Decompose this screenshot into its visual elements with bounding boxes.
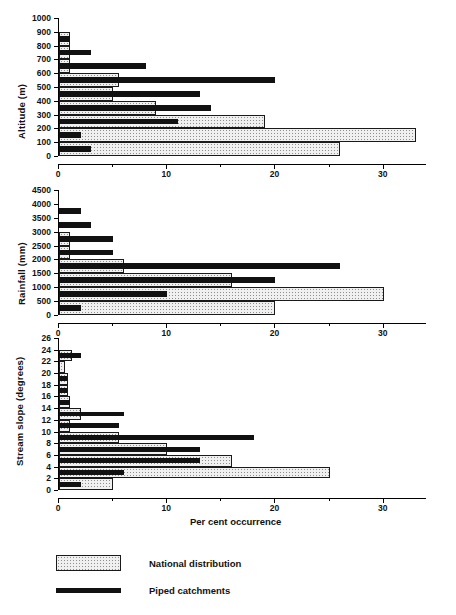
bar-piped: [59, 470, 124, 475]
legend-item-national: National distribution: [56, 555, 241, 571]
bar-piped: [59, 132, 81, 138]
bar-national: [59, 128, 416, 142]
bar-piped: [59, 277, 275, 283]
bar-piped: [59, 236, 113, 242]
y-tick-label: 3500: [7, 213, 51, 223]
y-tick: [54, 432, 58, 433]
y-tick: [54, 455, 58, 456]
y-tick-label: 1500: [7, 268, 51, 278]
x-tick-label: 10: [162, 169, 171, 179]
bar-piped: [59, 105, 211, 111]
y-tick: [54, 73, 58, 74]
x-tick-minor: [112, 165, 113, 167]
legend-swatch-national: [56, 555, 121, 571]
bar-piped: [59, 400, 70, 405]
bar-piped: [59, 77, 275, 83]
y-tick-label: 24: [7, 345, 51, 355]
y-tick-label: 4000: [7, 199, 51, 209]
bar-piped: [59, 91, 200, 97]
y-tick: [54, 408, 58, 409]
y-tick: [54, 361, 58, 362]
x-tick-label: 30: [378, 503, 387, 513]
y-tick-label: 600: [7, 68, 51, 78]
x-tick-label: 20: [270, 503, 279, 513]
x-tick-label: 30: [378, 328, 387, 338]
y-tick: [54, 190, 58, 191]
y-tick: [54, 18, 58, 19]
bar-piped: [59, 353, 81, 358]
y-tick-label: 2500: [7, 241, 51, 251]
y-tick-label: 20: [7, 368, 51, 378]
y-tick: [54, 350, 58, 351]
y-tick-label: 200: [7, 123, 51, 133]
y-tick: [54, 301, 58, 302]
legend-label-national: National distribution: [149, 558, 241, 569]
bar-national: [59, 361, 65, 373]
bar-piped: [59, 263, 340, 269]
y-tick-label: 700: [7, 54, 51, 64]
y-tick-label: 1000: [7, 13, 51, 23]
legend-swatch-piped: [56, 588, 121, 593]
y-tick-label: 26: [7, 333, 51, 343]
y-tick-label: 1000: [7, 282, 51, 292]
y-tick: [54, 218, 58, 219]
bar-piped: [59, 376, 67, 381]
x-tick-minor: [112, 499, 113, 501]
y-tick: [54, 478, 58, 479]
y-tick: [54, 128, 58, 129]
x-tick-label: 10: [162, 503, 171, 513]
y-tick-label: 18: [7, 380, 51, 390]
y-tick: [54, 467, 58, 468]
y-tick: [54, 204, 58, 205]
y-tick-label: 12: [7, 415, 51, 425]
x-tick-label: 0: [56, 169, 61, 179]
x-tick-label: 30: [378, 169, 387, 179]
y-tick-label: 22: [7, 356, 51, 366]
y-tick-label: 4: [7, 462, 51, 472]
y-tick: [54, 87, 58, 88]
bar-piped: [59, 388, 67, 393]
bar-piped: [59, 435, 254, 440]
figure-legend: National distributionPiped catchments: [0, 555, 456, 610]
x-axis-title: Per cent occurrence: [190, 516, 281, 527]
bar-piped: [59, 146, 91, 152]
x-axis-line: [58, 498, 426, 499]
bar-piped: [59, 482, 81, 487]
y-tick: [54, 490, 58, 491]
y-tick: [54, 338, 58, 339]
x-tick-minor: [329, 165, 330, 167]
y-tick-label: 8: [7, 438, 51, 448]
y-tick-label: 0: [7, 485, 51, 495]
y-tick-label: 3000: [7, 227, 51, 237]
x-tick-minor: [329, 499, 330, 501]
y-tick: [54, 246, 58, 247]
bar-piped: [59, 50, 91, 56]
y-tick-label: 900: [7, 27, 51, 37]
y-tick: [54, 443, 58, 444]
x-axis-line: [58, 164, 426, 165]
bar-piped: [59, 412, 124, 417]
x-tick-minor: [220, 499, 221, 501]
y-tick-label: 6: [7, 450, 51, 460]
x-tick-minor: [220, 324, 221, 326]
y-tick-label: 300: [7, 110, 51, 120]
y-tick-label: 2: [7, 473, 51, 483]
y-tick: [54, 420, 58, 421]
y-tick: [54, 142, 58, 143]
x-tick-label: 20: [270, 169, 279, 179]
y-tick-label: 10: [7, 427, 51, 437]
x-tick-minor: [329, 324, 330, 326]
y-tick: [54, 385, 58, 386]
plot-area: 010203002468101214161820222426: [58, 338, 426, 490]
y-tick: [54, 59, 58, 60]
x-tick-label: 10: [162, 328, 171, 338]
bar-national: [59, 142, 340, 156]
bar-piped: [59, 291, 167, 297]
x-tick-minor: [112, 324, 113, 326]
x-tick-minor: [220, 165, 221, 167]
y-tick: [54, 315, 58, 316]
bar-piped: [59, 119, 178, 125]
y-tick-label: 2000: [7, 254, 51, 264]
bar-piped: [59, 222, 91, 228]
legend-item-piped: Piped catchments: [56, 585, 230, 596]
